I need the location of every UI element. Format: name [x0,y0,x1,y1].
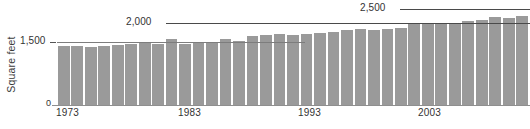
y-axis-origin-label: 0 [46,98,51,108]
bar [476,20,488,105]
bar [98,46,110,105]
y-tick-mark-1500 [50,42,56,43]
y-axis-label-2500: 2,500 [360,2,386,13]
bar [355,29,367,105]
bar [408,24,420,105]
bar [85,47,97,105]
bar [166,39,178,105]
gridline-1500 [57,42,305,43]
x-axis-label-1993: 1993 [298,107,321,118]
bar [233,41,245,105]
y-axis-title: Square feet [0,0,22,129]
bar [341,30,353,105]
bar [152,44,164,105]
bar [449,24,461,105]
bar [71,46,83,105]
gridline-2000 [166,23,530,24]
bar [139,42,151,105]
bar [489,17,501,105]
bar [247,36,259,105]
bar [435,23,447,105]
bar [274,34,286,105]
bar [301,34,313,105]
bar [516,16,528,105]
bar [125,44,137,105]
x-axis-label-2003: 2003 [418,107,441,118]
gridline-2500 [400,9,530,10]
bar [220,39,232,105]
bar [328,32,340,105]
bar [368,30,380,105]
bar [287,35,299,105]
bar [382,29,394,105]
y-axis-label-2000: 2,000 [126,16,152,27]
y-axis-label-1500: 1,500 [20,35,46,46]
bar [260,35,272,105]
bar [462,21,474,105]
bar [193,43,205,105]
x-axis-baseline [52,105,530,106]
bar [206,42,218,105]
bar [179,44,191,105]
bar [395,28,407,105]
bar [503,18,515,105]
x-axis-label-1973: 1973 [56,107,79,118]
bar [314,33,326,105]
bar [422,23,434,105]
bar [112,45,124,105]
x-axis-label-1983: 1983 [178,107,201,118]
bar [58,46,70,105]
square-feet-bar-chart: Square feet 1,500 2,000 2,500 0 1973 198… [0,0,530,129]
